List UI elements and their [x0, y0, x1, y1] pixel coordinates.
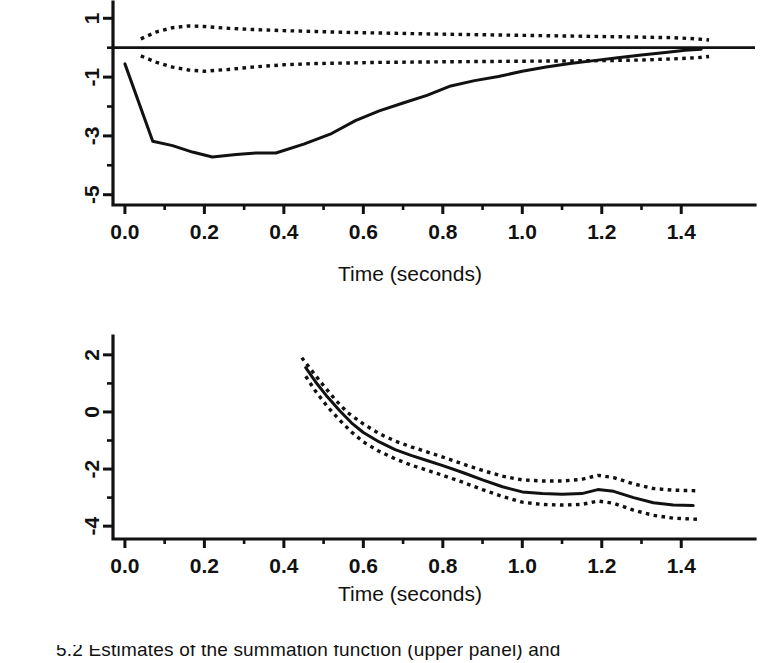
summation-x-tick-label: 0.8: [428, 220, 458, 243]
decay-tick-labels: 0.00.20.40.60.81.01.21.420-2-4: [80, 349, 697, 577]
decay-x-axis-title: Time (seconds): [338, 582, 482, 605]
summation-series: [113, 26, 755, 157]
decay-series: [302, 358, 697, 520]
decay-x-tick-label: 0.8: [428, 554, 458, 577]
decay-function-chart: 0.00.20.40.60.81.01.21.420-2-4 Decay fun…: [0, 322, 779, 622]
decay-y-tick-label: 0: [80, 406, 103, 418]
decay-x-tick-label: 1.0: [508, 554, 537, 577]
summation-x-tick-label: 0.4: [269, 220, 299, 243]
summation-x-tick-label: 1.2: [587, 220, 616, 243]
figure-caption-strip: 5.2 Estimates of the summation function …: [0, 645, 779, 663]
summation-series-upper-confidence-band: [141, 26, 709, 40]
decay-x-tick-label: 0.2: [190, 554, 219, 577]
summation-x-tick-label: 1.4: [667, 220, 697, 243]
decay-x-tick-label: 0.0: [110, 554, 139, 577]
summation-function-chart: 0.00.20.40.60.81.01.21.41-1-3-5 Summatio…: [0, 0, 779, 300]
decay-x-tick-label: 1.4: [667, 554, 697, 577]
summation-y-tick-label: -5: [80, 185, 103, 204]
decay-y-tick-label: -4: [80, 517, 103, 536]
decay-x-tick-label: 0.6: [349, 554, 378, 577]
decay-series-upper-confidence-band: [302, 358, 697, 491]
decay-y-tick-label: 2: [80, 349, 103, 361]
figure-container: 0.00.20.40.60.81.01.21.41-1-3-5 Summatio…: [0, 0, 779, 663]
summation-y-tick-label: -3: [80, 127, 103, 146]
summation-plot-group: 0.00.20.40.60.81.01.21.41-1-3-5: [80, 2, 755, 243]
summation-chart-svg: 0.00.20.40.60.81.01.21.41-1-3-5 Summatio…: [0, 0, 779, 300]
summation-x-tick-label: 0.0: [110, 220, 139, 243]
decay-y-tick-label: -2: [80, 460, 103, 479]
decay-series-estimate: [306, 368, 693, 506]
summation-y-tick-label: -1: [80, 67, 103, 86]
summation-series-estimate: [125, 49, 701, 157]
summation-y-tick-label: 1: [80, 12, 103, 24]
decay-x-tick-label: 1.2: [587, 554, 616, 577]
decay-axes: [103, 336, 755, 548]
decay-x-tick-label: 0.4: [269, 554, 299, 577]
summation-x-tick-label: 0.2: [190, 220, 219, 243]
decay-chart-svg: 0.00.20.40.60.81.01.21.420-2-4 Decay fun…: [0, 322, 779, 622]
summation-x-tick-label: 0.6: [349, 220, 378, 243]
summation-x-tick-label: 1.0: [508, 220, 537, 243]
summation-x-axis-title: Time (seconds): [338, 262, 482, 285]
decay-plot-group: 0.00.20.40.60.81.01.21.420-2-4: [80, 336, 755, 577]
figure-caption: 5.2 Estimates of the summation function …: [56, 645, 561, 661]
